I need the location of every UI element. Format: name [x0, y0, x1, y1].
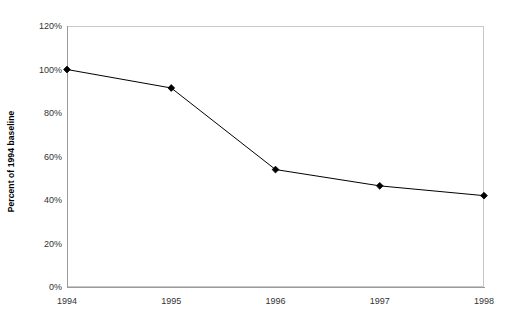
x-tick-label: 1995	[161, 296, 181, 306]
data-point-marker	[64, 66, 71, 73]
x-tick-label: 1997	[370, 296, 390, 306]
x-tick-label: 1996	[265, 296, 285, 306]
data-series-layer	[0, 0, 510, 323]
data-point-marker	[481, 192, 488, 199]
data-point-marker	[376, 182, 383, 189]
line-chart: Percent of 1994 baseline 120% 100% 80% 6…	[0, 0, 510, 323]
x-tick-label: 1998	[474, 296, 494, 306]
series-markers	[64, 66, 488, 199]
series-line	[67, 70, 484, 196]
x-tick-label: 1994	[57, 296, 77, 306]
